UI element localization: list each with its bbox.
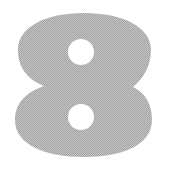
numeral-8-graphic [0, 0, 170, 170]
numeral-8-top-counter [68, 39, 94, 65]
numeral-8-body [15, 13, 152, 157]
numeral-8-bottom-counter [68, 104, 94, 130]
canvas: 8 [0, 0, 170, 170]
numeral-8-figure: 8 [0, 0, 170, 170]
